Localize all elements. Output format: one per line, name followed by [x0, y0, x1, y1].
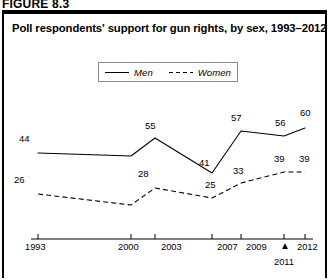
data-label-men-2012: 60	[300, 108, 311, 118]
x-tick-label-1993: 1993	[25, 243, 46, 252]
data-label-women-2003: 28	[138, 169, 149, 179]
data-label-men-2007: 41	[199, 158, 210, 168]
data-label-men-2003: 55	[145, 121, 156, 131]
data-label-women-2007: 25	[205, 180, 216, 190]
x-annotation-label-2011: 2011	[274, 258, 294, 267]
x-tick-label-2012: 2012	[297, 243, 318, 252]
plot-area	[0, 0, 329, 280]
data-label-men-2009: 57	[231, 113, 242, 123]
series-line-men	[38, 128, 305, 173]
data-label-women-1993: 26	[14, 175, 25, 185]
data-label-men-2011: 56	[275, 118, 286, 128]
x-tick-label-2000: 2000	[118, 243, 139, 252]
data-label-men-1993: 44	[19, 134, 30, 144]
series-line-women	[38, 172, 305, 205]
data-label-women-2009: 33	[233, 166, 244, 176]
x-tick-label-2003: 2003	[161, 243, 182, 252]
x-tick-label-2007: 2007	[217, 243, 238, 252]
x-axis-ticks	[38, 234, 305, 239]
data-label-women-2012: 39	[299, 154, 310, 164]
data-label-women-2011: 39	[274, 154, 285, 164]
x-tick-label-2009: 2009	[246, 243, 267, 252]
up-arrow-icon: ▲	[280, 241, 290, 251]
figure-container: FIGURE 8.3 Poll respondents' support for…	[0, 0, 329, 280]
